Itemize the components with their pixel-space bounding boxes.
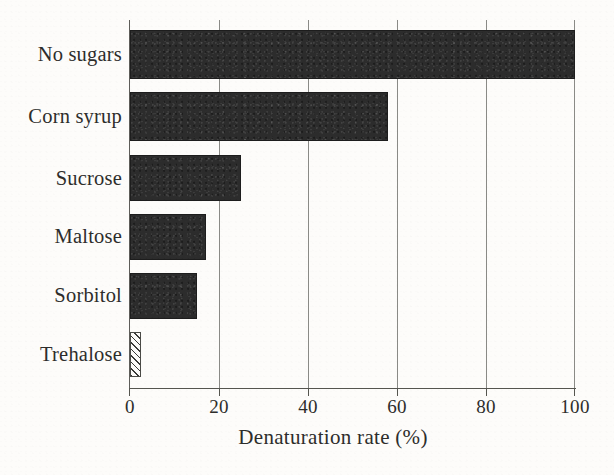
bar-corn-syrup — [130, 92, 388, 141]
bar-no-sugars — [130, 30, 575, 79]
x-tick-label-0: 0 — [100, 396, 160, 418]
bar-row-no-sugars — [130, 30, 575, 79]
x-tick-label-60: 60 — [367, 396, 427, 418]
category-label-corn-syrup: Corn syrup — [2, 104, 122, 128]
bar-row-sorbitol — [130, 273, 575, 319]
category-label-sucrose: Sucrose — [2, 166, 122, 190]
x-tick-60 — [397, 389, 398, 396]
x-tick-label-20: 20 — [189, 396, 249, 418]
x-axis-title: Denaturation rate (%) — [0, 425, 614, 450]
x-tick-label-40: 40 — [278, 396, 338, 418]
x-tick-100 — [574, 389, 575, 396]
plot-area — [130, 20, 575, 389]
category-label-trehalose: Trehalose — [2, 342, 122, 366]
x-tick-label-80: 80 — [456, 396, 516, 418]
category-label-no-sugars: No sugars — [2, 42, 122, 66]
bar-sucrose — [130, 155, 241, 201]
bar-maltose — [130, 214, 206, 260]
bar-row-trehalose — [130, 332, 575, 377]
bar-row-sucrose — [130, 155, 575, 201]
x-tick-80 — [486, 389, 487, 396]
bar-row-maltose — [130, 214, 575, 260]
bar-chart-figure: No sugars Corn syrup Sucrose Maltose Sor… — [0, 0, 614, 475]
x-tick-0 — [129, 389, 130, 396]
x-axis-line — [129, 388, 576, 389]
bar-row-corn-syrup — [130, 92, 575, 141]
category-label-maltose: Maltose — [2, 224, 122, 248]
bar-trehalose — [130, 332, 141, 377]
category-label-sorbitol: Sorbitol — [2, 283, 122, 307]
bar-sorbitol — [130, 273, 197, 319]
x-tick-20 — [219, 389, 220, 396]
x-tick-40 — [308, 389, 309, 396]
x-tick-label-100: 100 — [545, 396, 605, 418]
